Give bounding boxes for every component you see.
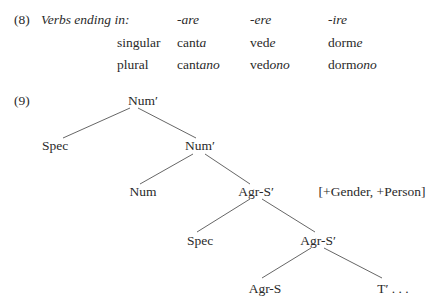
node-spec-1: Spec [42, 139, 68, 153]
node-agr-s-bar-2: Agr-S′ [300, 234, 336, 248]
node-num-bar: Num′ [185, 139, 215, 153]
node-num-bar-root: Num′ [128, 94, 158, 108]
node-t-bar: T′ . . . [377, 282, 408, 296]
features-label: [+Gender, +Person] [319, 185, 426, 199]
node-agr-s: Agr-S [249, 282, 282, 296]
node-num: Num [130, 185, 157, 199]
node-agr-s-bar-1: Agr-S′ [238, 185, 274, 199]
node-spec-2: Spec [187, 234, 213, 248]
